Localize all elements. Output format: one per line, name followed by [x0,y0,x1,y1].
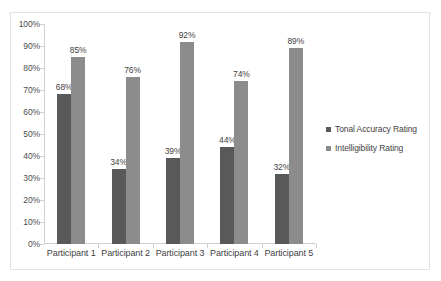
y-axis-tick-mark [40,24,44,25]
legend-item[interactable]: Intelligibility Rating [326,143,426,153]
y-axis-tick-label: 10% [23,217,40,227]
bar[interactable] [180,42,194,244]
bar[interactable] [166,158,180,244]
x-axis-tick-mark [153,244,154,248]
bar-group: 68%85% [57,24,85,244]
y-axis-tick-mark [40,222,44,223]
legend-swatch-icon [326,146,331,151]
x-axis-tick-mark [316,244,317,248]
bar-group: 39%92% [166,24,194,244]
y-axis-tick-label: 60% [23,107,40,117]
y-axis-tick-label: 100% [19,19,40,29]
bar-value-label: 68% [56,82,73,92]
y-axis-tick-mark [40,68,44,69]
bar[interactable] [71,57,85,244]
x-axis-tick-mark [98,244,99,248]
bar-value-label: 44% [219,135,236,145]
x-axis-category-labels: Participant 1Participant 2Participant 3P… [44,248,316,264]
y-axis: 0%10%20%30%40%50%60%70%80%90%100% [10,24,44,244]
chart-legend: Tonal Accuracy RatingIntelligibility Rat… [326,124,426,162]
y-axis-tick-mark [40,178,44,179]
x-axis-category-label: Participant 2 [101,248,150,258]
x-axis-category-label: Participant 4 [210,248,259,258]
bar-group: 34%76% [112,24,140,244]
bar-group: 32%89% [275,24,303,244]
x-axis-category-label: Participant 3 [156,248,205,258]
plot-area: 68%85%34%76%39%92%44%74%32%89% [44,24,316,244]
bar-value-label: 92% [179,30,196,40]
chart-figure: 0%10%20%30%40%50%60%70%80%90%100% 68%85%… [0,0,441,281]
y-axis-tick-mark [40,134,44,135]
y-axis-tick-mark [40,90,44,91]
y-axis-tick-label: 20% [23,195,40,205]
y-axis-tick-label: 40% [23,151,40,161]
bar-value-label: 34% [110,157,127,167]
y-axis-tick-label: 50% [23,129,40,139]
bar-value-label: 74% [233,69,250,79]
bar-value-label: 89% [287,36,304,46]
bar[interactable] [234,81,248,244]
y-axis-tick-mark [40,156,44,157]
legend-label: Tonal Accuracy Rating [335,124,417,134]
y-axis-tick-label: 80% [23,63,40,73]
x-axis-category-label: Participant 1 [47,248,96,258]
bar[interactable] [220,147,234,244]
bar[interactable] [289,48,303,244]
bar-value-label: 32% [273,162,290,172]
y-axis-tick-mark [40,46,44,47]
y-axis-tick-label: 70% [23,85,40,95]
y-axis-tick-mark [40,200,44,201]
bar-value-label: 76% [124,65,141,75]
bar-group: 44%74% [220,24,248,244]
x-axis-tick-mark [262,244,263,248]
y-axis-tick-label: 0% [28,239,40,249]
legend-swatch-icon [326,127,331,132]
x-axis-tick-mark [207,244,208,248]
legend-label: Intelligibility Rating [335,143,403,153]
bar[interactable] [57,94,71,244]
x-axis-category-label: Participant 5 [264,248,313,258]
bar[interactable] [112,169,126,244]
bar-value-label: 85% [70,45,87,55]
y-axis-tick-label: 90% [23,41,40,51]
legend-item[interactable]: Tonal Accuracy Rating [326,124,426,134]
bar-value-label: 39% [165,146,182,156]
y-axis-tick-mark [40,244,44,245]
y-axis-tick-label: 30% [23,173,40,183]
y-axis-tick-mark [40,112,44,113]
bar[interactable] [275,174,289,244]
bar[interactable] [126,77,140,244]
